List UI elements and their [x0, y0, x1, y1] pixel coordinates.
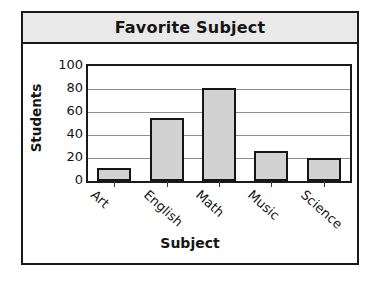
- bar: [254, 151, 288, 181]
- y-tick-label: 80: [45, 81, 83, 94]
- y-tick-label: 40: [45, 127, 83, 140]
- bar: [97, 168, 131, 181]
- bar: [307, 158, 341, 181]
- y-axis-tick-labels: 020406080100: [45, 57, 83, 179]
- x-tick-label: English: [141, 187, 186, 230]
- x-tick-label: Math: [193, 187, 227, 220]
- bar: [150, 118, 184, 181]
- chart-title-bar: Favorite Subject: [23, 13, 357, 44]
- bar-series: [88, 66, 350, 181]
- x-tick-label: Art: [88, 187, 112, 211]
- chart-title: Favorite Subject: [115, 18, 266, 37]
- x-tick-label: Science: [298, 187, 345, 232]
- y-tick-label: 60: [45, 104, 83, 117]
- y-axis-title: Students: [27, 63, 45, 173]
- bar: [202, 88, 236, 181]
- chart-figure: Favorite Subject Students 020406080100 A…: [21, 11, 359, 265]
- y-axis-title-text: Students: [28, 84, 44, 153]
- plot-area: [86, 64, 352, 183]
- x-axis-tick-labels: ArtEnglishMathMusicScience: [86, 187, 352, 237]
- y-tick-label: 20: [45, 150, 83, 163]
- y-tick-label: 0: [45, 173, 83, 186]
- y-tick-label: 100: [45, 58, 83, 71]
- x-tick-label: Music: [245, 187, 283, 223]
- x-axis-title: Subject: [23, 235, 357, 251]
